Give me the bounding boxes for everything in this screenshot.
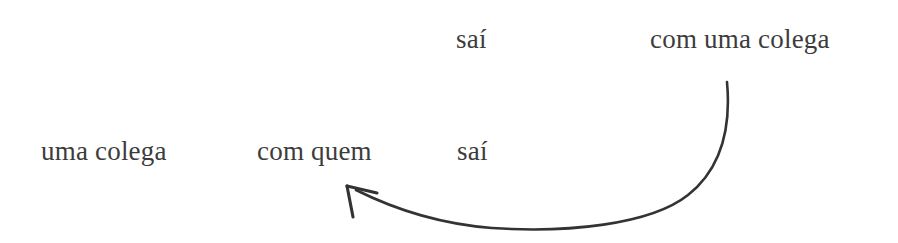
token-com-quem: com quem	[257, 138, 372, 165]
movement-arrowhead-lower-barb	[347, 186, 353, 217]
token-sai-lower: saí	[457, 138, 488, 165]
token-uma-colega: uma colega	[41, 138, 167, 165]
figure-canvas: saí com uma colega uma colega com quem s…	[0, 0, 898, 243]
token-com-uma-colega: com uma colega	[650, 26, 830, 53]
movement-arrowhead-upper-barb	[347, 186, 377, 193]
movement-arrow-curve	[356, 82, 728, 229]
token-sai-upper: saí	[456, 26, 487, 53]
